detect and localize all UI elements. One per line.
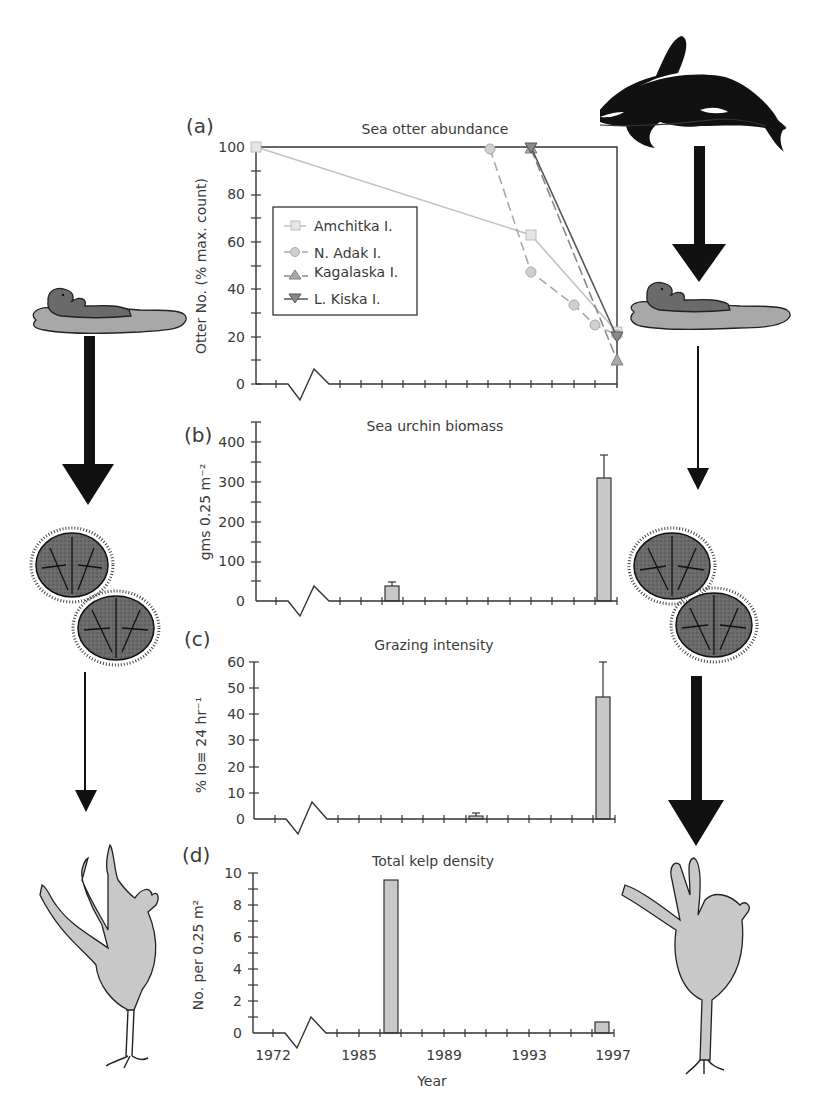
- panel-a-yticks: 0 20 40 60 80 100: [218, 139, 245, 392]
- panel-a-ylabel: Otter No. (% max. count): [193, 178, 209, 354]
- svg-text:80: 80: [227, 186, 245, 202]
- bar-kelp-1987: [384, 880, 398, 1033]
- trophic-cascade-figure: (a) Sea otter abundance Otter No. (% max…: [0, 0, 819, 1116]
- svg-text:60: 60: [227, 234, 245, 250]
- bar-urchin-1987: [385, 586, 399, 601]
- svg-text:100: 100: [218, 553, 245, 569]
- svg-text:4: 4: [233, 961, 242, 977]
- svg-text:0: 0: [236, 811, 245, 827]
- svg-text:20: 20: [227, 329, 245, 345]
- bar-kelp-1997: [595, 1022, 609, 1033]
- panel-a-title: Sea otter abundance: [362, 121, 509, 137]
- svg-text:400: 400: [218, 434, 245, 450]
- right-arrow-urchin-to-kelp: [668, 676, 724, 846]
- svg-text:Kagalaska I.: Kagalaska I.: [314, 264, 398, 280]
- svg-text:20: 20: [227, 759, 245, 775]
- svg-text:1972: 1972: [255, 1047, 291, 1063]
- sea-urchins-icon-left: [31, 528, 159, 665]
- svg-text:100: 100: [218, 139, 245, 155]
- svg-text:6: 6: [233, 929, 242, 945]
- panel-b-sea-urchin-biomass: (b) Sea urchin biomass gms 0.25 m⁻² 0 10…: [184, 418, 617, 616]
- svg-text:10: 10: [227, 785, 245, 801]
- panel-b-letter: (b): [184, 423, 212, 447]
- panel-a-letter: (a): [186, 114, 214, 138]
- panel-a-sea-otter-abundance: (a) Sea otter abundance Otter No. (% max…: [186, 114, 623, 400]
- svg-text:30: 30: [227, 732, 245, 748]
- sea-otter-icon-right: [631, 283, 790, 330]
- right-arrow-otter-to-urchin: [687, 346, 709, 490]
- svg-text:40: 40: [227, 281, 245, 297]
- bar-grazing-1997: [596, 697, 610, 819]
- panel-d-total-kelp-density: (d) Total kelp density No. per 0.25 m² 0…: [182, 843, 631, 1089]
- sea-urchins-icon-right: [629, 528, 757, 662]
- svg-text:0: 0: [233, 1025, 242, 1041]
- series-n-adak: [485, 144, 622, 340]
- panel-d-ylabel: No. per 0.25 m²: [190, 900, 206, 1010]
- panel-b-ylabel: gms 0.25 m⁻²: [197, 464, 213, 561]
- series-l-kiska: [525, 143, 623, 342]
- left-arrow-urchin-to-kelp: [75, 672, 97, 812]
- sea-otter-icon-left: [33, 289, 186, 334]
- svg-text:N. Adak I.: N. Adak I.: [314, 245, 381, 261]
- svg-text:60: 60: [227, 654, 245, 670]
- svg-text:L. Kiska I.: L. Kiska I.: [314, 291, 381, 307]
- legend: Amchitka I. N. Adak I. Kagalaska I. L. K…: [273, 207, 417, 315]
- panel-d-title: Total kelp density: [371, 853, 494, 869]
- svg-text:Amchitka I.: Amchitka I.: [314, 218, 393, 234]
- svg-text:1985: 1985: [341, 1047, 377, 1063]
- panel-c-title: Grazing intensity: [374, 637, 493, 653]
- panel-d-letter: (d): [182, 843, 210, 867]
- bar-urchin-1997: [597, 478, 611, 601]
- svg-text:200: 200: [218, 514, 245, 530]
- panel-b-title: Sea urchin biomass: [367, 418, 504, 434]
- svg-text:10: 10: [224, 865, 242, 881]
- panel-c-ylabel: % lo≡ 24 hr⁻¹: [193, 697, 209, 793]
- killer-whale-icon: [600, 36, 786, 152]
- svg-text:1997: 1997: [595, 1047, 631, 1063]
- svg-text:40: 40: [227, 706, 245, 722]
- svg-text:0: 0: [236, 593, 245, 609]
- x-axis-label: Year: [416, 1073, 447, 1089]
- svg-text:2: 2: [233, 993, 242, 1009]
- left-arrow-otter-to-urchin: [62, 336, 114, 505]
- svg-text:50: 50: [227, 680, 245, 696]
- kelp-icon-right: [622, 858, 749, 1074]
- svg-text:1989: 1989: [426, 1047, 462, 1063]
- x-tick-labels: 1972 1985 1989 1993 1997: [255, 1047, 631, 1063]
- svg-text:1993: 1993: [511, 1047, 547, 1063]
- svg-text:0: 0: [236, 376, 245, 392]
- kelp-icon-left: [40, 845, 158, 1068]
- panel-c-letter: (c): [184, 627, 211, 651]
- svg-text:8: 8: [233, 897, 242, 913]
- svg-text:300: 300: [218, 474, 245, 490]
- right-arrow-orca-to-otter: [672, 146, 726, 282]
- panel-c-grazing-intensity: (c) Grazing intensity % lo≡ 24 hr⁻¹ 0 10…: [184, 627, 615, 834]
